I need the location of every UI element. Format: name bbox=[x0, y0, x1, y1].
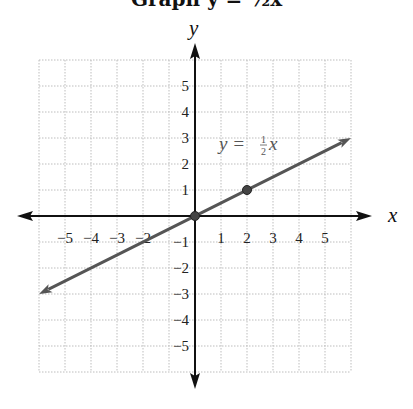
equation-denominator: 2 bbox=[261, 146, 266, 157]
data-point bbox=[243, 186, 252, 195]
x-tick-label: 4 bbox=[295, 230, 303, 246]
x-tick-label: 1 bbox=[217, 230, 225, 246]
x-tick-label: −4 bbox=[83, 230, 99, 246]
x-tick-label: −3 bbox=[109, 230, 125, 246]
y-tick-label: 3 bbox=[182, 130, 190, 146]
y-tick-label: 5 bbox=[182, 78, 190, 94]
x-axis-label: x bbox=[387, 203, 398, 227]
x-tick-label: 3 bbox=[269, 230, 277, 246]
equation-lhs: y = bbox=[217, 133, 245, 154]
y-axis-label: y bbox=[187, 16, 199, 40]
y-tick-label: 1 bbox=[182, 182, 190, 198]
equation-variable: x bbox=[268, 133, 278, 154]
y-tick-label: 2 bbox=[182, 156, 190, 172]
x-tick-label: 2 bbox=[243, 230, 251, 246]
y-tick-label: −3 bbox=[173, 286, 189, 302]
y-tick-label: −4 bbox=[173, 312, 189, 328]
x-tick-label: 5 bbox=[321, 230, 329, 246]
coordinate-plane: −5−4−3−21234554321−1−2−3−4−5 x y y = 1 2… bbox=[0, 0, 413, 409]
y-tick-label: −1 bbox=[173, 234, 189, 250]
equation-numerator: 1 bbox=[261, 134, 266, 145]
y-tick-label: −2 bbox=[173, 260, 189, 276]
y-tick-label: 4 bbox=[182, 104, 190, 120]
y-tick-label: −5 bbox=[173, 338, 189, 354]
data-point bbox=[191, 212, 200, 221]
x-tick-label: −5 bbox=[57, 230, 73, 246]
